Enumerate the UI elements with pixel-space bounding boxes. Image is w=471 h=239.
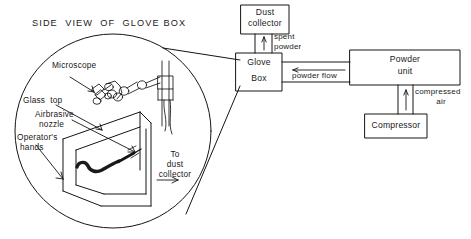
label-to-dust-collector-line3: collector: [149, 170, 201, 179]
powder-unit-label-line2: unit: [350, 67, 460, 76]
label-operators-hands-line2: hands: [20, 143, 44, 152]
label-glass-top: Glass top: [23, 96, 62, 105]
spent-powder-label-line2: powder: [274, 43, 301, 51]
dust-collector-label-line1: Dust: [241, 8, 289, 17]
spent-powder-label-line1: spent: [274, 33, 295, 41]
powder-flow-label: powder flow: [292, 72, 337, 80]
label-operators-hands-line1: Operator's: [17, 133, 57, 142]
duct-post: [158, 61, 173, 134]
glove-box-label-line1: Glove: [236, 58, 282, 67]
glove-box-bottom-front: [63, 191, 101, 206]
label-to-dust-collector-line2: dust: [152, 160, 198, 169]
arrow-microscope: [70, 77, 94, 92]
powder-unit-label-line1: Powder: [350, 55, 460, 64]
compressed-air-label-line2: air: [415, 98, 467, 106]
callout-cone-upper: [163, 48, 240, 60]
diagram-canvas: SIDE VIEW OF GLOVE BOX Microscope Glass …: [0, 0, 471, 239]
label-airbrasive-nozzle-line2: nozzle: [39, 120, 64, 129]
label-to-dust-collector-line1: To: [152, 150, 198, 159]
microscope-assembly: [92, 77, 160, 104]
dust-collector-label-line2: collector: [239, 19, 291, 28]
compressed-air-label-line1: compressed: [415, 88, 461, 96]
label-microscope: Microscope: [52, 61, 96, 70]
figure-title: SIDE VIEW OF GLOVE BOX: [32, 19, 186, 29]
glove-box-bottom-inner: [76, 185, 104, 194]
compressor-label: Compressor: [365, 121, 427, 130]
label-airbrasive-nozzle-line1: Airbrasive: [35, 110, 74, 119]
detail-circle-outline: [15, 34, 211, 228]
glove-box-label-line2: Box: [236, 74, 282, 83]
glove-box-top-right-corner: [140, 112, 151, 123]
